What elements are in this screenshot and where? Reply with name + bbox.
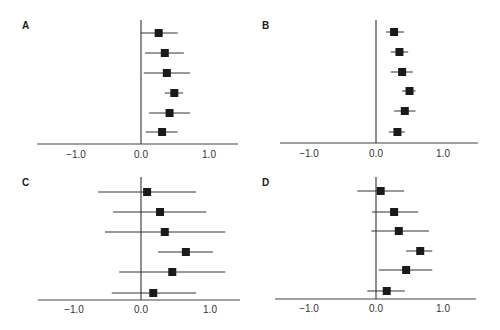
- point-estimate-marker: [402, 266, 410, 274]
- point-estimate-marker: [166, 109, 174, 117]
- forest-plot-figure: A −1.0 0.0 1.0 B −1.0 0.0 1.0 C −1.0 0.0…: [0, 0, 500, 330]
- point-estimate-marker: [158, 128, 166, 136]
- panel-label: C: [22, 177, 29, 188]
- x-tick-label: 1.0: [202, 149, 216, 160]
- x-tick-label: 0.0: [134, 304, 148, 315]
- point-estimate-marker: [406, 87, 414, 95]
- point-estimate-marker: [149, 289, 157, 297]
- panel-d: D −1.0 0.0 1.0: [250, 165, 500, 330]
- point-estimate-marker: [377, 187, 385, 195]
- point-estimate-marker: [390, 208, 398, 216]
- x-tick-label: 1.0: [436, 148, 450, 159]
- point-estimate-marker: [143, 188, 151, 196]
- panel-label: A: [22, 20, 29, 31]
- x-tick-label: 1.0: [436, 303, 450, 314]
- point-estimate-marker: [161, 228, 169, 236]
- point-estimate-marker: [395, 227, 403, 235]
- panel-b: B −1.0 0.0 1.0: [250, 0, 500, 165]
- x-tick-label: −1.0: [64, 304, 84, 315]
- forest-plot-b: [250, 0, 500, 165]
- point-estimate-marker: [393, 128, 401, 136]
- forest-plot-a: [0, 0, 250, 165]
- x-tick-label: 1.0: [203, 304, 217, 315]
- point-estimate-marker: [168, 268, 176, 276]
- point-estimate-marker: [161, 49, 169, 57]
- x-tick-label: −1.0: [299, 148, 319, 159]
- point-estimate-marker: [182, 248, 190, 256]
- panel-label: B: [262, 20, 269, 31]
- point-estimate-marker: [398, 68, 406, 76]
- point-estimate-marker: [155, 29, 163, 37]
- point-estimate-marker: [170, 89, 178, 97]
- panel-label: D: [262, 177, 269, 188]
- x-tick-label: 0.0: [134, 149, 148, 160]
- x-tick-label: −1.0: [299, 303, 319, 314]
- panel-a: A −1.0 0.0 1.0: [0, 0, 250, 165]
- point-estimate-marker: [163, 69, 171, 77]
- point-estimate-marker: [383, 287, 391, 295]
- x-tick-label: −1.0: [66, 149, 86, 160]
- point-estimate-marker: [401, 107, 409, 115]
- point-estimate-marker: [416, 247, 424, 255]
- x-tick-label: 0.0: [369, 303, 383, 314]
- point-estimate-marker: [390, 28, 398, 36]
- point-estimate-marker: [156, 208, 164, 216]
- panel-c: C −1.0 0.0 1.0: [0, 165, 250, 330]
- x-tick-label: 0.0: [369, 148, 383, 159]
- point-estimate-marker: [395, 48, 403, 56]
